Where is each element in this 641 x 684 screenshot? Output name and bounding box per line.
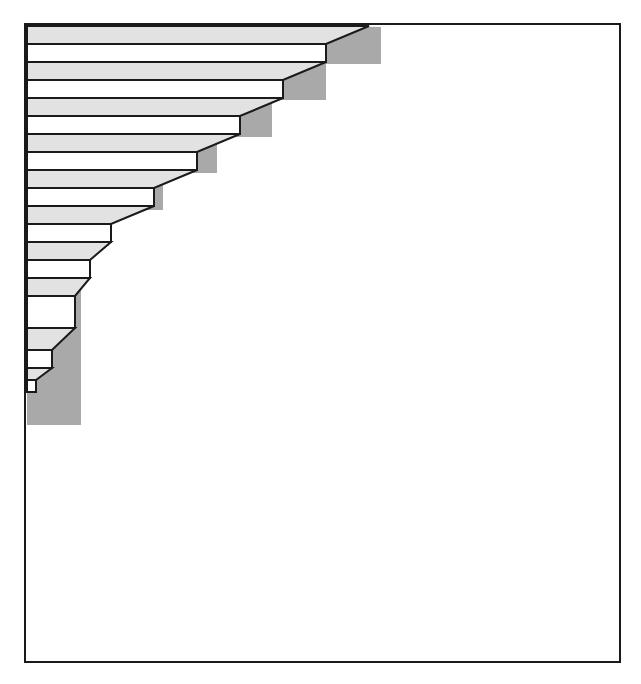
step-tread-face [27,26,369,44]
step-tread-face [27,62,326,80]
step-riser-face [27,350,52,368]
figure-canvas [0,0,641,684]
step-riser-face [27,116,240,134]
staircase-step [27,62,326,98]
step-tread-face [27,98,283,116]
staircase-figure [0,0,641,684]
step-riser-face [27,188,154,206]
staircase-step [27,26,369,62]
step-riser-face [27,224,111,242]
step-riser-face [27,380,36,392]
step-riser-face [27,296,75,328]
step-riser-face [27,44,326,62]
step-riser-face [27,80,283,98]
step-riser-face [27,260,90,278]
step-riser-face [27,152,197,170]
